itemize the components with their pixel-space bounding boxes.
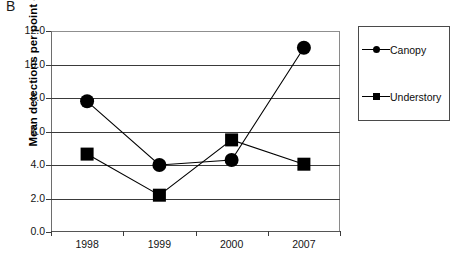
legend-entry-canopy: Canopy — [359, 42, 451, 58]
series-line-understory — [87, 140, 304, 195]
series-line-canopy — [87, 48, 304, 165]
data-point-circle — [80, 94, 94, 108]
data-point-square — [81, 148, 94, 161]
plot-area — [51, 31, 340, 232]
legend-entry-understory: Understory — [359, 89, 451, 105]
y-axis-ticks — [0, 31, 51, 232]
legend-label-canopy: Canopy — [390, 45, 426, 56]
data-point-circle — [297, 41, 311, 55]
x-tick-label: 1998 — [75, 238, 98, 250]
square-marker-icon — [373, 93, 380, 100]
panel-label: B — [6, 0, 16, 14]
legend-label-understory: Understory — [390, 92, 441, 103]
x-tick-label: 1999 — [148, 238, 171, 250]
data-point-circle — [152, 158, 166, 172]
chart-figure: B Mean detections per point count 0.02.0… — [0, 0, 455, 263]
data-series-layer — [51, 31, 340, 232]
chart-legend: Canopy Understory — [358, 26, 450, 121]
data-point-square — [225, 133, 238, 146]
data-point-square — [297, 158, 310, 171]
x-tick-mark — [340, 231, 341, 236]
data-point-square — [153, 189, 166, 202]
circle-marker-icon — [373, 46, 380, 53]
x-tick-label: 2000 — [220, 238, 243, 250]
legend-key-canopy — [362, 43, 390, 57]
x-tick-label: 2007 — [292, 238, 315, 250]
data-point-circle — [225, 153, 239, 167]
legend-key-understory — [362, 90, 390, 104]
